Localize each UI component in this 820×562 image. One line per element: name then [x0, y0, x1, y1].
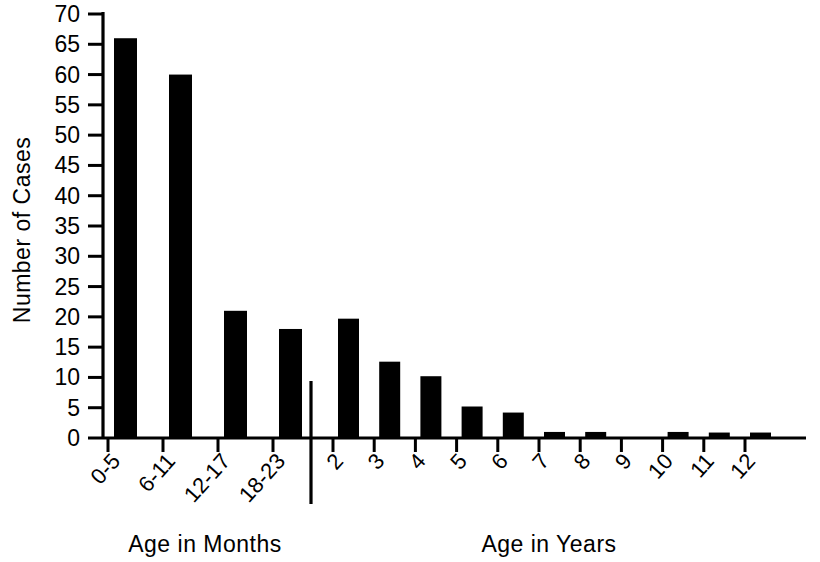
y-tick-label: 40 — [54, 183, 80, 209]
y-tick-label: 50 — [54, 122, 80, 148]
x-category-label: 10 — [643, 449, 678, 484]
x-category-label: 18-23 — [234, 449, 290, 508]
bar — [338, 319, 359, 438]
x-axis-category-labels: 0-56-1112-1718-2323456789101112 — [85, 449, 760, 508]
bar — [420, 376, 441, 438]
bar — [462, 407, 483, 438]
bar — [709, 433, 730, 438]
x-axis-ticks — [108, 438, 745, 452]
bar — [279, 329, 302, 438]
x-category-label: 5 — [445, 449, 472, 475]
y-tick-label: 5 — [67, 395, 80, 421]
y-tick-label: 30 — [54, 243, 80, 269]
y-axis-tick-labels: 0510152025303540455055606570 — [54, 1, 80, 451]
x-axis-title-months: Age in Months — [128, 531, 282, 557]
bar — [750, 433, 771, 438]
x-category-label: 11 — [685, 449, 719, 483]
bar — [668, 432, 689, 438]
y-axis-ticks — [88, 14, 103, 438]
x-category-label: 9 — [610, 449, 637, 475]
y-tick-label: 25 — [54, 274, 80, 300]
bar — [114, 38, 137, 438]
bar — [503, 413, 524, 438]
y-tick-label: 35 — [54, 213, 80, 239]
y-tick-label: 55 — [54, 92, 80, 118]
y-tick-label: 60 — [54, 62, 80, 88]
y-tick-label: 15 — [54, 334, 80, 360]
y-tick-label: 10 — [54, 364, 80, 390]
x-category-label: 6 — [486, 449, 513, 475]
y-tick-label: 20 — [54, 304, 80, 330]
x-category-label: 4 — [404, 449, 431, 475]
bar-chart: 0510152025303540455055606570 0-56-1112-1… — [0, 0, 820, 562]
x-axis-title-years: Age in Years — [481, 531, 616, 557]
y-tick-label: 70 — [54, 1, 80, 27]
bar — [585, 432, 606, 438]
bar — [379, 362, 400, 438]
bar — [544, 432, 565, 438]
y-tick-label: 0 — [67, 425, 80, 451]
bar — [169, 75, 192, 438]
x-category-label: 6-11 — [133, 449, 180, 497]
x-category-label: 2 — [321, 449, 348, 475]
x-category-label: 8 — [569, 449, 596, 475]
x-category-label: 7 — [527, 449, 554, 475]
y-tick-label: 45 — [54, 152, 80, 178]
y-tick-label: 65 — [54, 31, 80, 57]
x-category-label: 12 — [725, 449, 760, 484]
y-axis-title: Number of Cases — [9, 137, 35, 323]
chart-canvas: 0510152025303540455055606570 0-56-1112-1… — [0, 0, 820, 562]
x-category-label: 0-5 — [85, 449, 125, 489]
x-category-label: 12-17 — [179, 449, 235, 508]
bar-series — [114, 38, 771, 438]
x-category-label: 3 — [363, 449, 390, 475]
bar — [224, 311, 247, 438]
